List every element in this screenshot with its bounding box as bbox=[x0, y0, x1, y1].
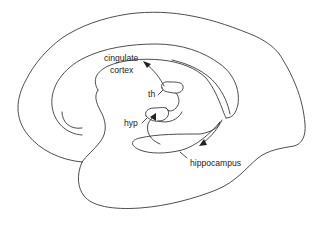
hippocampus-shape bbox=[133, 122, 221, 153]
circuit-path-to-cingulate bbox=[146, 64, 164, 86]
label-thalamus: th bbox=[148, 89, 155, 99]
label-cingulate: cingulate bbox=[104, 53, 139, 63]
brainstem-curve bbox=[82, 90, 105, 162]
hypothalamus-leader-line bbox=[142, 118, 147, 123]
inner-swirl bbox=[62, 112, 82, 128]
thalamus-to-hypothalamus-path bbox=[166, 93, 179, 111]
hippocampus-leader-line bbox=[180, 152, 187, 158]
label-hippocampus: hippocampus bbox=[190, 158, 241, 168]
label-cortex: cortex bbox=[110, 65, 134, 75]
brain-outline bbox=[18, 12, 305, 208]
thalamus-leader-line bbox=[158, 90, 163, 95]
thalamus-shape bbox=[161, 82, 183, 93]
hypothalamus-shape bbox=[145, 108, 168, 122]
label-hypothalamus: hyp bbox=[124, 118, 138, 128]
cingulate-gyrus-outer-arc bbox=[52, 44, 239, 135]
circuit-path-to-hypothalamus bbox=[148, 116, 161, 144]
limbic-system-diagram: cingulate cortex th hyp hippocampus bbox=[0, 0, 322, 227]
